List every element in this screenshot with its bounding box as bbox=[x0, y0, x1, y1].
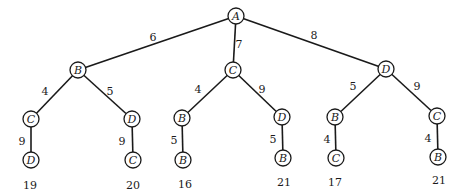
edge-weight: 7 bbox=[236, 38, 243, 51]
path-total: 16 bbox=[178, 178, 192, 191]
tree-edge bbox=[236, 16, 386, 69]
tree-edges bbox=[31, 16, 438, 160]
path-total: 21 bbox=[277, 176, 291, 189]
path-total: 20 bbox=[126, 179, 140, 192]
edge-weight: 9 bbox=[19, 135, 26, 148]
path-total: 17 bbox=[328, 176, 342, 189]
tree-node: C bbox=[328, 150, 344, 166]
tree-node: D bbox=[124, 111, 140, 127]
tree-node: C bbox=[429, 108, 445, 124]
edge-weight: 4 bbox=[195, 83, 202, 96]
tree-node: C bbox=[225, 62, 241, 78]
tree-edge bbox=[386, 69, 437, 116]
edge-weight: 5 bbox=[270, 133, 277, 146]
tree-edge bbox=[233, 70, 282, 117]
node-label: C bbox=[229, 64, 238, 77]
tree-node: D bbox=[378, 61, 394, 77]
edge-weight: 9 bbox=[414, 80, 421, 93]
node-label: C bbox=[332, 152, 341, 165]
node-label: D bbox=[127, 113, 137, 126]
edge-weight: 5 bbox=[171, 134, 178, 147]
node-label: B bbox=[433, 151, 442, 164]
tree-node: B bbox=[275, 150, 291, 166]
tree-edge bbox=[335, 69, 386, 117]
tree-edge bbox=[78, 70, 132, 119]
tree-node: C bbox=[23, 111, 39, 127]
edge-weight: 9 bbox=[119, 135, 126, 148]
path-total: 19 bbox=[23, 179, 37, 192]
tree-node: B bbox=[430, 149, 446, 165]
node-label: C bbox=[129, 154, 138, 167]
node-label: D bbox=[277, 111, 287, 124]
node-label: C bbox=[433, 110, 442, 123]
node-label: C bbox=[27, 113, 36, 126]
weighted-tree-diagram: 678454959995544 ABCDCDBDBCDCBBCB 1920162… bbox=[0, 0, 469, 195]
tree-edge bbox=[78, 16, 236, 70]
node-label: B bbox=[177, 112, 186, 125]
tree-edge bbox=[182, 70, 233, 118]
node-label: B bbox=[73, 64, 82, 77]
edge-weight: 5 bbox=[107, 85, 114, 98]
tree-node: A bbox=[228, 8, 244, 24]
edge-weight: 6 bbox=[150, 31, 157, 44]
tree-node: C bbox=[125, 152, 141, 168]
edge-weight: 5 bbox=[350, 80, 357, 93]
tree-node: D bbox=[23, 152, 39, 168]
edge-weight: 4 bbox=[425, 132, 432, 145]
node-label: D bbox=[26, 154, 36, 167]
node-label: B bbox=[330, 111, 339, 124]
node-label: B bbox=[278, 152, 287, 165]
edge-weight: 9 bbox=[259, 83, 266, 96]
tree-node: B bbox=[175, 152, 191, 168]
path-total: 21 bbox=[432, 174, 446, 187]
tree-node: D bbox=[274, 109, 290, 125]
edge-weight: 8 bbox=[311, 29, 318, 42]
node-label: D bbox=[381, 63, 391, 76]
tree-edge bbox=[31, 70, 78, 119]
edge-weight: 4 bbox=[324, 133, 331, 146]
tree-node: B bbox=[70, 62, 86, 78]
edge-weight: 4 bbox=[42, 85, 49, 98]
edge-weight-labels: 678454959995544 bbox=[19, 29, 432, 148]
node-label: A bbox=[231, 10, 240, 23]
node-label: B bbox=[178, 154, 187, 167]
path-total-labels: 192016211721 bbox=[23, 174, 446, 192]
tree-node: B bbox=[174, 110, 190, 126]
tree-node: B bbox=[327, 109, 343, 125]
